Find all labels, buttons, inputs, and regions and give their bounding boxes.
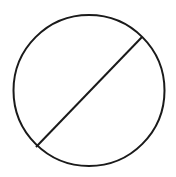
diagram-canvas: [0, 0, 176, 177]
circle-with-chord-diagram: [0, 0, 176, 177]
chord-line: [36, 37, 142, 147]
